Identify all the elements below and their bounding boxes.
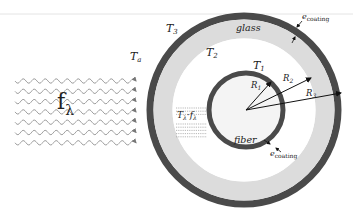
- incident-wave-arrow: [15, 99, 136, 103]
- incident-wave-arrow: [15, 89, 136, 93]
- incident-wave-arrow: [15, 130, 136, 134]
- incident-wave-arrow: [15, 110, 136, 114]
- incident-wave-arrow: [15, 141, 136, 145]
- incident-wave-arrow: [15, 79, 136, 83]
- fiber-label: fiber: [233, 134, 258, 145]
- outer-coating-thickness-arrow-outer: [297, 21, 302, 27]
- fiber-glass-cross-section-diagram: Ta T3 T2 T1 glass fiber R1 R2 R3 ecoatin…: [0, 0, 353, 219]
- ambient-temp-label: Ta: [130, 50, 142, 64]
- incident-radiation-waves: [15, 79, 136, 145]
- glass-label: glass: [236, 22, 261, 33]
- outer-coating-temp-label: T3: [166, 22, 178, 36]
- incident-wave-arrow: [15, 120, 136, 124]
